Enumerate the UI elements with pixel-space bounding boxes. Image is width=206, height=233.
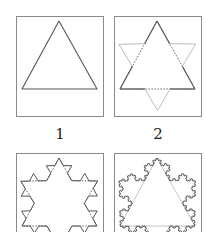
previous-iteration-outline — [120, 21, 195, 89]
panel-frame — [17, 17, 104, 117]
base-triangle-outline — [120, 158, 195, 226]
panel-iteration-2 — [115, 17, 202, 117]
koch-curve-outline — [119, 158, 196, 232]
koch-curve — [22, 21, 97, 89]
panel-frame — [17, 154, 104, 233]
koch-curve-outline — [21, 158, 98, 232]
panel-iteration-4 — [115, 154, 202, 233]
panel-frame — [115, 154, 202, 233]
previous-iteration-outline — [21, 158, 98, 232]
koch-curve — [119, 21, 196, 111]
panel-iteration-1 — [17, 17, 104, 117]
panel-frame — [115, 17, 202, 117]
kept-segment — [182, 66, 195, 89]
koch-curve — [119, 158, 196, 232]
triangle-outline — [22, 21, 97, 89]
panel-iteration-3 — [17, 154, 104, 233]
kept-segment — [157, 21, 170, 44]
panel-label: 2 — [153, 125, 163, 143]
koch-snowflake-diagram: 1 2 — [0, 0, 206, 232]
koch-curve — [21, 158, 98, 232]
panel-label: 1 — [55, 125, 65, 143]
kept-segment — [145, 21, 157, 44]
new-bumps-outline — [119, 21, 196, 111]
kept-segment — [120, 66, 132, 89]
